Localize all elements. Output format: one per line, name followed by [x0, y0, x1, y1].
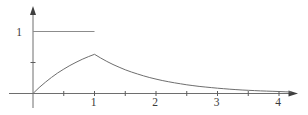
x-tick-label: 1 [91, 96, 97, 108]
x-tick-label: 3 [214, 96, 220, 108]
pulse-response-figure: 12341 [0, 0, 308, 115]
x-axis-arrow-icon [289, 91, 299, 97]
plot-canvas: 12341 [0, 0, 308, 115]
y-axis-arrow-icon [30, 6, 36, 15]
x-tick-label: 4 [275, 96, 281, 108]
response-curve [33, 54, 291, 93]
y-tick-label: 1 [16, 26, 22, 38]
x-tick-label: 2 [152, 96, 158, 108]
